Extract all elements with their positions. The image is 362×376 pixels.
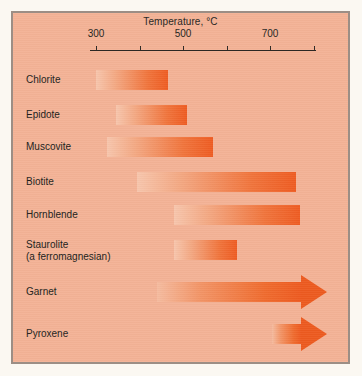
range-arrow-pyroxene	[272, 321, 326, 347]
row-label-primary: Muscovite	[26, 141, 71, 153]
row-label-primary: Garnet	[26, 286, 57, 298]
axis-tick-label-500: 500	[175, 28, 192, 39]
row-label-primary: Staurolite	[26, 239, 110, 251]
range-bar-muscovite	[107, 137, 214, 157]
chart-row: Staurolite(a ferromagnesian)	[13, 239, 350, 261]
chart-row: Hornblende	[13, 203, 350, 227]
row-label-garnet: Garnet	[26, 286, 57, 298]
row-label-secondary: (a ferromagnesian)	[26, 251, 110, 263]
axis-tick-600	[227, 46, 228, 51]
row-label-primary: Pyroxene	[26, 328, 68, 340]
row-label-epidote: Epidote	[26, 109, 60, 121]
arrow-shaft	[272, 324, 300, 344]
chart-row: Chlorite	[13, 69, 350, 91]
axis-tick-700	[270, 46, 271, 51]
axis-tick-500	[183, 46, 184, 51]
row-label-primary: Epidote	[26, 109, 60, 121]
temperature-axis: 300500700	[13, 13, 350, 65]
range-arrow-garnet	[157, 279, 327, 305]
chart-row: Muscovite	[13, 135, 350, 159]
chart-row: Pyroxene	[13, 321, 350, 347]
row-label-pyroxene: Pyroxene	[26, 328, 68, 340]
chart-row: Epidote	[13, 103, 350, 126]
axis-tick-800	[314, 46, 315, 51]
row-label-primary: Chlorite	[26, 74, 60, 86]
chart-row: Biotite	[13, 169, 350, 194]
axis-tick-400	[140, 46, 141, 51]
row-label-hornblende: Hornblende	[26, 209, 78, 221]
axis-tick-label-700: 700	[262, 28, 279, 39]
arrow-shaft	[157, 282, 301, 302]
row-label-biotite: Biotite	[26, 176, 54, 188]
row-label-primary: Hornblende	[26, 209, 78, 221]
row-label-staurolite: Staurolite(a ferromagnesian)	[26, 239, 110, 263]
range-bar-hornblende	[174, 205, 300, 225]
chart-row: Garnet	[13, 279, 350, 305]
range-bar-biotite	[137, 172, 296, 192]
axis-line	[90, 50, 316, 51]
axis-tick-label-300: 300	[88, 28, 105, 39]
row-label-chlorite: Chlorite	[26, 74, 60, 86]
arrow-head-icon	[301, 275, 327, 309]
range-bar-chlorite	[96, 70, 168, 90]
arrow-head-icon	[301, 317, 327, 351]
row-label-primary: Biotite	[26, 176, 54, 188]
axis-tick-300	[96, 46, 97, 51]
range-bar-staurolite	[174, 240, 237, 260]
figure-canvas: Temperature, °C 300500700 ChloriteEpidot…	[0, 0, 362, 376]
chart-panel: Temperature, °C 300500700 ChloriteEpidot…	[11, 11, 350, 364]
range-bar-epidote	[116, 105, 188, 125]
row-label-muscovite: Muscovite	[26, 141, 71, 153]
